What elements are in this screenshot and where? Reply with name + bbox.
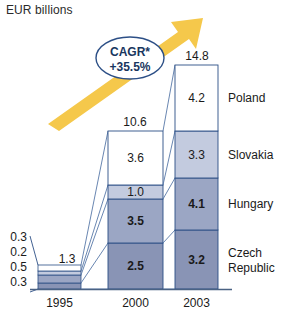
cagr-value: +35.5% (96, 60, 164, 74)
value-2000-slovakia: 1.0 (108, 185, 163, 199)
x-tick-2003: 2003 (174, 296, 219, 310)
value-2003-czech: 3.2 (175, 253, 218, 267)
value-1995-hungary: 0.5 (0, 260, 27, 274)
bar-1995 (38, 265, 81, 289)
legend-label-poland: Poland (228, 92, 265, 104)
value-2003-slovakia: 3.3 (175, 148, 218, 162)
value-2003-hungary: 4.1 (175, 197, 218, 211)
value-2000-hungary: 3.5 (108, 214, 163, 228)
legend-label-czech-line1: Czech (228, 247, 262, 259)
value-2000-poland: 3.6 (108, 151, 163, 165)
value-1995-poland: 0.3 (0, 230, 27, 244)
value-2003-poland: 4.2 (175, 91, 218, 105)
total-2000: 10.6 (106, 115, 164, 129)
value-1995-slovakia: 0.2 (0, 245, 27, 259)
value-leader-lines-1995 (30, 236, 38, 292)
legend-label-hungary: Hungary (228, 198, 273, 210)
x-tick-2000: 2000 (108, 296, 163, 310)
cagr-label: CAGR* (96, 45, 164, 59)
value-2000-czech: 2.5 (108, 259, 163, 273)
connector-2000-2003 (163, 65, 175, 289)
legend-label-czech-line2: Republic (228, 262, 275, 274)
x-tick-1995: 1995 (32, 296, 87, 310)
total-1995: 1.3 (38, 252, 96, 266)
stacked-bar-chart: EUR billions (0, 0, 293, 325)
total-2003: 14.8 (173, 49, 221, 63)
value-1995-czech: 0.3 (0, 275, 27, 289)
legend-label-slovakia: Slovakia (228, 149, 273, 161)
